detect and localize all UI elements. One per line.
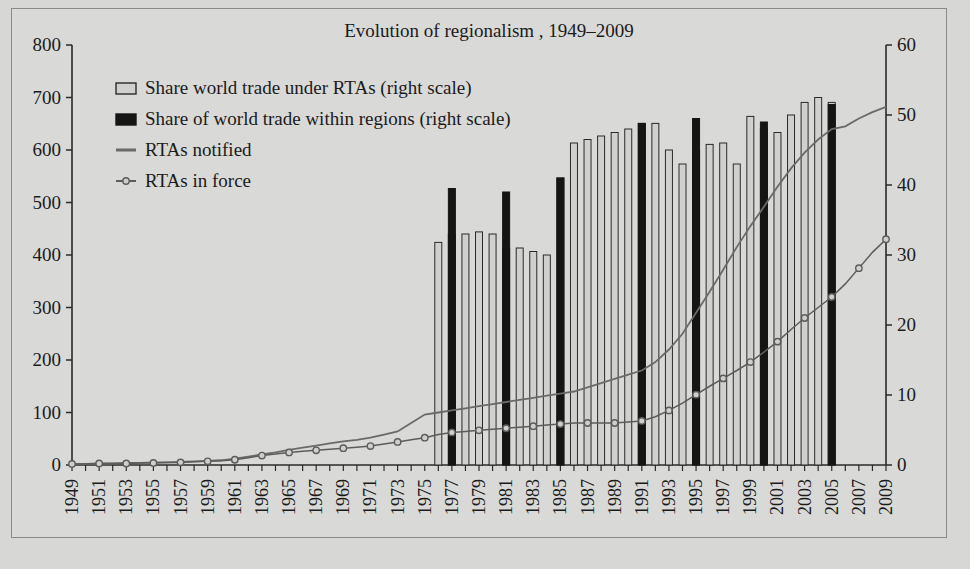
line-marker-point xyxy=(584,420,590,426)
legend-label: RTAs notified xyxy=(145,139,252,160)
chart-svg: 0100200300400500600700800010203040506019… xyxy=(12,9,946,537)
x-axis-tick-label: 2003 xyxy=(795,479,815,515)
line-marker-point xyxy=(611,420,617,426)
line-marker-point xyxy=(367,443,373,449)
x-axis-tick-label: 1987 xyxy=(578,479,598,515)
line-marker-point xyxy=(286,449,292,455)
x-axis-tick-label: 1957 xyxy=(171,479,191,515)
line-marker-point xyxy=(449,429,455,435)
legend-item: Share world trade under RTAs (right scal… xyxy=(116,77,472,99)
left-axis-tick-label: 100 xyxy=(33,402,62,423)
right-axis-tick-label: 20 xyxy=(897,314,916,335)
bar xyxy=(665,150,672,465)
bar xyxy=(489,234,496,465)
bar xyxy=(720,143,727,465)
bar xyxy=(516,248,523,465)
x-axis-tick-label: 1991 xyxy=(632,479,652,515)
x-axis-tick-label: 1981 xyxy=(496,479,516,515)
chart-title: Evolution of regionalism , 1949–2009 xyxy=(344,20,634,41)
left-axis-tick-label: 200 xyxy=(33,349,62,370)
x-axis-tick-label: 1983 xyxy=(523,479,543,515)
bar xyxy=(503,192,510,465)
left-axis-tick-label: 700 xyxy=(33,87,62,108)
legend-swatch-dark-bar xyxy=(116,114,136,125)
left-axis-tick-label: 400 xyxy=(33,244,62,265)
bar xyxy=(570,143,577,465)
right-axis-tick-label: 50 xyxy=(897,104,916,125)
x-axis-tick-label: 1993 xyxy=(659,479,679,515)
bar-series xyxy=(435,98,835,466)
bar xyxy=(747,116,754,465)
x-axis-tick-label: 1949 xyxy=(62,479,82,515)
legend-label: RTAs in force xyxy=(145,170,251,191)
left-axis-tick-label: 300 xyxy=(33,297,62,318)
bar xyxy=(760,122,767,465)
x-axis-tick-label: 1977 xyxy=(442,479,462,515)
bar xyxy=(693,119,700,466)
bar xyxy=(543,255,550,465)
line-marker-point xyxy=(204,458,210,464)
bar xyxy=(462,234,469,465)
x-axis-tick-label: 1955 xyxy=(143,479,163,515)
line-marker-point xyxy=(503,425,509,431)
line-marker-point xyxy=(829,294,835,300)
x-axis-tick-label: 1961 xyxy=(225,479,245,515)
line-marker-point xyxy=(394,439,400,445)
x-axis-tick-label: 1965 xyxy=(279,479,299,515)
x-axis-tick-label: 1989 xyxy=(605,479,625,515)
x-axis-tick-label: 1969 xyxy=(333,479,353,515)
bar xyxy=(652,123,659,465)
x-axis-tick-label: 1995 xyxy=(686,479,706,515)
legend-item: Share of world trade within regions (rig… xyxy=(116,108,511,130)
x-axis-tick-label: 1963 xyxy=(252,479,272,515)
x-axis-tick-label: 1959 xyxy=(198,479,218,515)
line-marker-point xyxy=(720,375,726,381)
bar xyxy=(435,242,442,465)
figure-frame: 0100200300400500600700800010203040506019… xyxy=(11,8,947,538)
legend-swatch-marker xyxy=(123,178,129,184)
bar xyxy=(611,133,618,466)
line-marker-point xyxy=(476,427,482,433)
line-marker-point xyxy=(313,447,319,453)
bar xyxy=(584,140,591,466)
x-axis-tick-label: 1951 xyxy=(89,479,109,515)
legend-label: Share world trade under RTAs (right scal… xyxy=(145,77,472,99)
x-axis-tick-label: 2001 xyxy=(767,479,787,515)
legend-swatch-light-bar xyxy=(116,83,136,94)
x-axis-tick-label: 1971 xyxy=(360,479,380,515)
line-marker-point xyxy=(123,460,129,466)
left-axis-tick-label: 600 xyxy=(33,139,62,160)
bar xyxy=(815,98,822,466)
x-axis-tick-label: 2007 xyxy=(849,479,869,515)
left-axis-tick-label: 0 xyxy=(52,454,62,475)
x-axis-tick-label: 1985 xyxy=(550,479,570,515)
line-marker-point xyxy=(69,461,75,467)
bar xyxy=(530,252,537,466)
x-axis-tick-label: 2005 xyxy=(822,479,842,515)
line-marker-point xyxy=(639,418,645,424)
left-axis-tick-label: 800 xyxy=(33,34,62,55)
line-marker-point xyxy=(259,452,265,458)
line-marker-point xyxy=(422,435,428,441)
legend-label: Share of world trade within regions (rig… xyxy=(145,108,511,130)
bar xyxy=(733,164,740,465)
line-marker-point xyxy=(856,265,862,271)
line-marker-point xyxy=(747,359,753,365)
line-marker-point xyxy=(666,407,672,413)
line-marker-point xyxy=(883,236,889,242)
line-marker-point xyxy=(557,421,563,427)
x-axis-tick-label: 1967 xyxy=(306,479,326,515)
x-axis-tick-label: 1973 xyxy=(388,479,408,515)
left-axis-tick-label: 500 xyxy=(33,192,62,213)
line-marker-point xyxy=(150,460,156,466)
bar xyxy=(679,164,686,465)
right-axis-tick-label: 10 xyxy=(897,384,916,405)
right-axis-tick-label: 0 xyxy=(897,454,907,475)
bar xyxy=(828,105,835,466)
line-marker-point xyxy=(340,445,346,451)
line-marker-point xyxy=(530,423,536,429)
line-marker-point xyxy=(232,457,238,463)
x-axis-tick-label: 1997 xyxy=(713,479,733,515)
line-marker-point xyxy=(693,391,699,397)
x-axis-tick-label: 2009 xyxy=(876,479,896,515)
